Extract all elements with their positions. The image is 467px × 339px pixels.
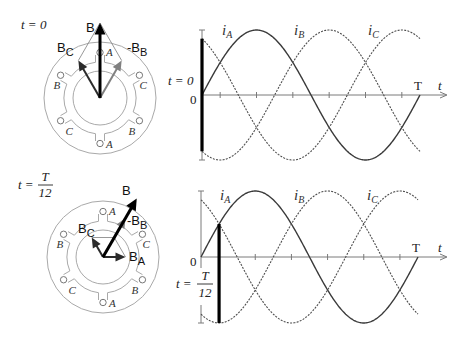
vector-label-subscript: A bbox=[138, 255, 146, 267]
conductor-icon bbox=[139, 231, 145, 237]
vector-label-subscript: B bbox=[140, 219, 147, 231]
panel-t-t12: t = T 12 A B C A B C B -BB BC BA bbox=[18, 169, 447, 323]
conductor-icon bbox=[136, 72, 142, 78]
field-vectors bbox=[78, 23, 121, 98]
conductor-label: A bbox=[108, 297, 116, 309]
rotating-magnetic-field-figure: t = 0 A B C A B C B BC -BB iA bbox=[0, 0, 467, 339]
marker-time-label: t = 0 bbox=[168, 73, 194, 88]
vector-label-ba: BA bbox=[129, 249, 146, 267]
series-label-subscript: A bbox=[223, 194, 231, 205]
marker-label-denominator: 12 bbox=[199, 285, 213, 300]
origin-label: 0 bbox=[190, 92, 197, 107]
conductor-icon bbox=[57, 72, 63, 78]
arrow-shaft bbox=[96, 245, 103, 257]
conductor-icon bbox=[100, 299, 106, 305]
series-label-ic: iC bbox=[368, 22, 379, 40]
chart-plot-area bbox=[198, 191, 447, 323]
conductor-label: B bbox=[57, 238, 64, 250]
vector-label-main: -B bbox=[127, 40, 140, 55]
time-label-denominator: 12 bbox=[39, 185, 53, 200]
stator-time-label: t = T 12 bbox=[18, 169, 53, 200]
conductor-label: C bbox=[142, 238, 150, 250]
conductor-icon bbox=[136, 118, 142, 124]
vector-label-bc: BC bbox=[57, 40, 74, 58]
x-axis-label: t bbox=[438, 78, 442, 93]
vector-label-neg-bb: -BB bbox=[127, 213, 147, 231]
vector-arrow-b bbox=[95, 23, 106, 98]
series-label-subscript: C bbox=[372, 29, 379, 40]
conductor-label: C bbox=[69, 284, 77, 296]
conductor-label: B bbox=[128, 125, 135, 137]
arrowhead-icon bbox=[95, 23, 106, 35]
vector-label-b: B bbox=[122, 183, 131, 198]
vector-label-main: -B bbox=[127, 213, 140, 228]
marker-time-label: t = T 12 bbox=[176, 268, 213, 300]
conductor-icon bbox=[100, 208, 106, 214]
origin-label: 0 bbox=[190, 254, 197, 269]
panel-t-0: t = 0 A B C A B C B BC -BB iA bbox=[21, 17, 447, 160]
vector-label-neg-bb: -BB bbox=[127, 40, 147, 58]
conductor-label: C bbox=[139, 79, 147, 91]
series-label-subscript: A bbox=[225, 29, 233, 40]
conductor-label: A bbox=[108, 205, 116, 217]
marker-label-numerator: T bbox=[201, 268, 209, 283]
x-axis-end-label: T bbox=[414, 78, 422, 93]
conductor-icon bbox=[60, 277, 66, 283]
vector-label-main: B bbox=[78, 221, 87, 236]
conductor-icon bbox=[60, 231, 66, 237]
series-label-subscript: C bbox=[371, 194, 378, 205]
time-label-numerator: T bbox=[41, 169, 49, 184]
vector-label-main: B bbox=[122, 183, 131, 198]
marker-label-prefix: t = bbox=[176, 276, 192, 291]
stator-diagram: A B C A B C B BC -BB bbox=[44, 20, 156, 154]
series-label-subscript: B bbox=[298, 194, 304, 205]
vector-arrow-bc bbox=[92, 238, 103, 257]
x-axis-end-label: T bbox=[412, 240, 420, 255]
vector-label-main: B bbox=[57, 40, 66, 55]
conductor-icon bbox=[57, 118, 63, 124]
series-label-ia: iA bbox=[220, 187, 231, 205]
conductor-label: B bbox=[54, 79, 61, 91]
series-label-ic: iC bbox=[367, 187, 378, 205]
conductor-label: B bbox=[131, 284, 138, 296]
time-label-prefix: t = bbox=[18, 177, 34, 192]
vector-label-main: B bbox=[86, 20, 95, 35]
vector-label-subscript: C bbox=[87, 227, 95, 239]
stator-time-label: t = 0 bbox=[21, 17, 47, 32]
vector-arrow-bc bbox=[78, 61, 100, 98]
x-axis-label: t bbox=[438, 240, 442, 255]
vector-label-subscript: B bbox=[140, 46, 147, 58]
series-label-ib: iB bbox=[294, 22, 304, 40]
vector-arrow-negbb bbox=[100, 61, 122, 98]
series-label-subscript: B bbox=[298, 29, 304, 40]
conductor-label: A bbox=[105, 46, 113, 58]
stator-diagram: A B C A B C B -BB BC BA bbox=[47, 183, 159, 313]
conductor-icon bbox=[97, 140, 103, 146]
current-waveform-chart: iA iB iC T t 0 t = 0 bbox=[168, 22, 447, 160]
current-waveform-chart: iA iB iC T t 0 t = T 12 bbox=[176, 187, 447, 323]
conductor-label: C bbox=[66, 125, 74, 137]
chart-plot-area bbox=[199, 30, 447, 160]
series-label-ia: iA bbox=[222, 22, 233, 40]
conductor-icon bbox=[139, 277, 145, 283]
vector-label-main: B bbox=[129, 249, 138, 264]
series-label-ib: iB bbox=[294, 187, 304, 205]
vector-label-bc: BC bbox=[78, 221, 95, 239]
vector-label-b: B bbox=[86, 20, 95, 35]
vector-label-subscript: C bbox=[66, 46, 74, 58]
conductor-label: A bbox=[105, 138, 113, 150]
